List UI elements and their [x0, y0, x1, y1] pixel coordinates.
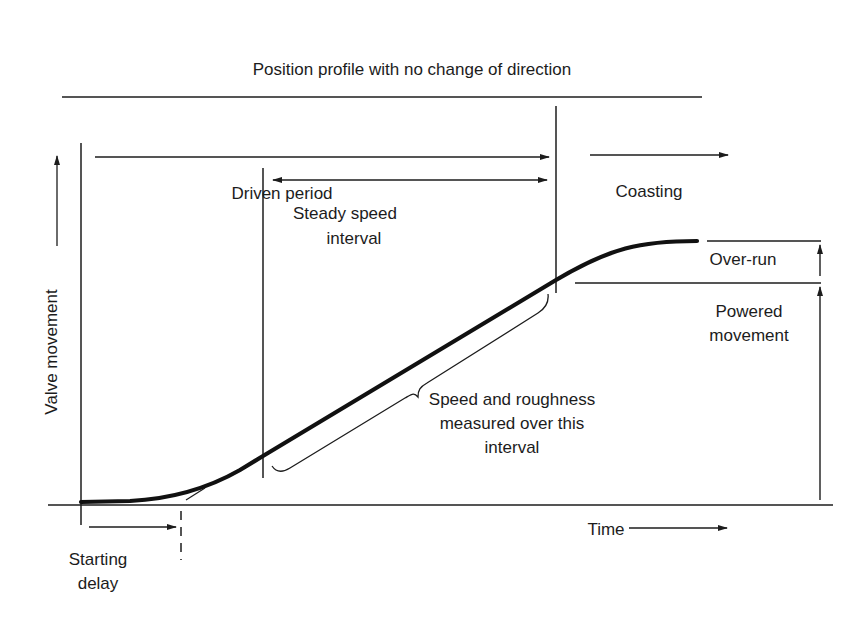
over-run-label: Over-run — [709, 250, 776, 270]
measurement-label-line2: measured over this — [440, 414, 585, 434]
measurement-label-line1: Speed and roughness — [429, 390, 595, 410]
y-axis-label: Valve movement — [42, 289, 62, 414]
time-axis-label: Time — [587, 520, 624, 540]
starting-delay-label-line1: Starting — [69, 550, 128, 570]
coasting-label: Coasting — [615, 182, 682, 202]
starting-delay-label-line2: delay — [78, 574, 119, 594]
powered-movement-label-line1: Powered — [715, 302, 782, 322]
powered-movement-label-line2: movement — [709, 326, 788, 346]
driven-period-label: Driven period — [231, 184, 332, 204]
steady-speed-label-line2: interval — [327, 229, 382, 249]
position-profile-curve — [81, 241, 697, 502]
diagram-title: Position profile with no change of direc… — [253, 60, 571, 80]
steady-speed-label-line1: Steady speed — [293, 204, 397, 224]
measurement-label-line3: interval — [485, 438, 540, 458]
